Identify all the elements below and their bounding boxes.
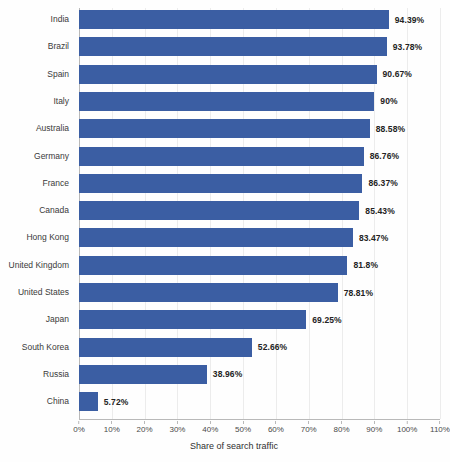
bar[interactable] <box>79 10 389 29</box>
bar-row: 90.67% <box>79 65 440 84</box>
bar[interactable] <box>79 201 359 220</box>
bar-row: 83.47% <box>79 228 440 247</box>
bar-row: 5.72% <box>79 392 440 411</box>
bar-row: 85.43% <box>79 201 440 220</box>
bar[interactable] <box>79 37 387 56</box>
bar-row: 38.96% <box>79 365 440 384</box>
x-tick-label: 0% <box>73 421 85 434</box>
x-tick-label: 50% <box>235 421 251 434</box>
category-label: Canada <box>39 201 69 220</box>
x-tick-label: 30% <box>169 421 185 434</box>
bar[interactable] <box>79 365 207 384</box>
bar[interactable] <box>79 338 252 357</box>
bar-row: 94.39% <box>79 10 440 29</box>
bar[interactable] <box>79 392 98 411</box>
bar-value-label: 85.43% <box>365 206 394 216</box>
bar-value-label: 81.8% <box>353 260 378 270</box>
bar-row: 52.66% <box>79 338 440 357</box>
x-axis-title: Share of search traffic <box>0 441 448 451</box>
x-tick-label: 90% <box>366 421 382 434</box>
x-tick-label: 10% <box>104 421 120 434</box>
x-axis-ticks: 0%10%20%30%40%50%60%70%80%90%100%110% <box>79 421 440 437</box>
bar-value-label: 93.78% <box>393 42 422 52</box>
bar-value-label: 88.58% <box>376 124 405 134</box>
bar-value-label: 90.67% <box>383 69 412 79</box>
bar-value-label: 5.72% <box>104 397 129 407</box>
category-label: United States <box>18 283 69 302</box>
category-label: France <box>43 174 69 193</box>
bar-value-label: 38.96% <box>213 369 242 379</box>
category-label: Italy <box>53 92 69 111</box>
bar-row: 86.37% <box>79 174 440 193</box>
bar-row: 81.8% <box>79 256 440 275</box>
x-tick-label: 110% <box>430 421 450 434</box>
category-label: South Korea <box>22 338 69 357</box>
bar[interactable] <box>79 228 353 247</box>
bar-value-label: 69.25% <box>312 315 341 325</box>
bar-row: 69.25% <box>79 310 440 329</box>
bar-value-label: 78.81% <box>344 288 373 298</box>
bar-value-label: 52.66% <box>258 342 287 352</box>
category-label: Japan <box>46 310 69 329</box>
x-tick-label: 70% <box>301 421 317 434</box>
bar[interactable] <box>79 283 338 302</box>
bar-value-label: 94.39% <box>395 15 424 25</box>
category-label: Hong Kong <box>26 228 69 247</box>
bar[interactable] <box>79 310 306 329</box>
bar-row: 78.81% <box>79 283 440 302</box>
gridline-110 <box>440 8 441 419</box>
bar-value-label: 86.76% <box>370 151 399 161</box>
bar[interactable] <box>79 65 377 84</box>
bar-row: 88.58% <box>79 119 440 138</box>
bar-value-label: 83.47% <box>359 233 388 243</box>
category-label: Australia <box>36 119 69 138</box>
x-tick-label: 60% <box>268 421 284 434</box>
x-axis-title-text: Share of search traffic <box>190 441 278 451</box>
bar[interactable] <box>79 147 364 166</box>
plot-area: 94.39%93.78%90.67%90%88.58%86.76%86.37%8… <box>79 8 440 419</box>
bar-value-label: 86.37% <box>368 178 397 188</box>
y-axis-category-labels: IndiaBrazilSpainItalyAustraliaGermanyFra… <box>0 8 74 419</box>
category-label: Spain <box>47 65 69 84</box>
x-tick-label: 20% <box>137 421 153 434</box>
bar[interactable] <box>79 119 370 138</box>
category-label: India <box>51 10 69 29</box>
x-tick-label: 40% <box>202 421 218 434</box>
x-tick-label: 80% <box>334 421 350 434</box>
bar[interactable] <box>79 174 362 193</box>
bar-value-label: 90% <box>380 96 397 106</box>
bar[interactable] <box>79 256 347 275</box>
bar-row: 90% <box>79 92 440 111</box>
x-axis-line <box>79 419 440 420</box>
category-label: Germany <box>34 147 69 166</box>
bar[interactable] <box>79 92 374 111</box>
bar-row: 86.76% <box>79 147 440 166</box>
category-label: United Kingdom <box>9 256 69 275</box>
bar-row: 93.78% <box>79 37 440 56</box>
category-label: China <box>47 392 69 411</box>
category-label: Brazil <box>48 37 69 56</box>
bar-rows: 94.39%93.78%90.67%90%88.58%86.76%86.37%8… <box>79 8 440 419</box>
x-tick-label: 100% <box>397 421 417 434</box>
category-label: Russia <box>43 365 69 384</box>
